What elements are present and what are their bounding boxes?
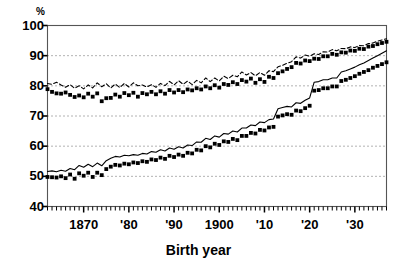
data-point-marker [348, 49, 352, 53]
data-point-marker [272, 76, 276, 80]
data-point-marker [100, 173, 104, 177]
data-point-marker [222, 139, 226, 143]
data-point-marker [321, 54, 325, 58]
data-point-marker [136, 95, 140, 99]
data-point-marker [281, 69, 285, 73]
data-point-marker [172, 155, 176, 159]
data-point-marker [163, 157, 167, 161]
data-point-marker [303, 106, 307, 110]
data-point-marker [181, 154, 185, 158]
data-point-marker [303, 59, 307, 63]
data-point-marker [168, 88, 172, 92]
data-point-marker [235, 82, 239, 86]
data-point-marker [348, 76, 352, 80]
data-point-marker [376, 64, 380, 68]
data-point-marker [326, 54, 330, 58]
data-point-marker [95, 91, 99, 95]
data-point-marker [127, 93, 131, 97]
data-point-marker [376, 42, 380, 46]
data-point-marker [109, 165, 113, 169]
data-point-marker [294, 109, 298, 113]
data-point-marker [159, 89, 163, 93]
data-point-marker [226, 83, 230, 87]
data-point-marker [190, 152, 194, 156]
data-point-marker [181, 90, 185, 94]
data-point-marker [371, 44, 375, 48]
data-point-marker [86, 92, 90, 96]
data-point-marker [168, 154, 172, 158]
data-point-marker [217, 143, 221, 147]
data-point-marker [235, 138, 239, 142]
data-point-marker [46, 175, 50, 179]
data-point-marker [249, 77, 253, 81]
data-point-marker [131, 161, 135, 165]
data-point-marker [244, 80, 248, 84]
data-point-marker [263, 129, 267, 133]
data-point-marker [91, 175, 95, 179]
data-point-marker [82, 174, 86, 178]
data-point-marker [308, 59, 312, 63]
data-point-marker [240, 78, 244, 82]
data-point-marker [177, 153, 181, 157]
data-point-marker [46, 87, 50, 91]
data-point-marker [190, 88, 194, 92]
data-point-marker [50, 90, 54, 94]
data-point-marker [172, 91, 176, 95]
x-axis-tick-label: 1870 [69, 218, 98, 231]
data-point-marker [150, 90, 154, 94]
data-point-marker [159, 156, 163, 160]
data-point-marker [186, 151, 190, 155]
x-axis-title: Birth year [0, 242, 397, 258]
data-point-marker [335, 85, 339, 89]
data-point-marker [109, 96, 113, 100]
data-point-marker [150, 158, 154, 162]
data-point-marker [344, 51, 348, 55]
data-point-marker [217, 86, 221, 90]
data-point-marker [199, 88, 203, 92]
data-point-marker [64, 176, 68, 180]
data-point-marker [371, 66, 375, 70]
data-point-marker [249, 131, 253, 135]
data-point-marker [145, 92, 149, 96]
data-point-marker [204, 85, 208, 89]
data-point-marker [339, 79, 343, 83]
data-point-marker [154, 158, 158, 162]
data-point-marker [104, 96, 108, 100]
data-point-marker [231, 137, 235, 141]
data-point-marker [95, 171, 99, 175]
data-point-marker [208, 86, 212, 90]
data-point-marker [145, 160, 149, 164]
data-point-marker [177, 88, 181, 92]
data-point-marker [213, 142, 217, 146]
data-point-marker [73, 177, 77, 181]
data-point-marker [141, 91, 145, 95]
data-point-marker [154, 92, 158, 96]
data-point-marker [118, 95, 122, 99]
data-point-marker [267, 126, 271, 130]
data-point-marker [272, 125, 276, 129]
data-point-marker [276, 115, 280, 119]
data-point-marker [163, 92, 167, 96]
x-axis-tick-label: '30 [346, 218, 364, 231]
data-point-marker [254, 81, 258, 85]
x-axis-tick-label: '80 [120, 218, 138, 231]
data-point-marker [73, 95, 77, 99]
data-point-marker [290, 65, 294, 69]
x-axis-tick-label: '90 [165, 218, 183, 231]
x-axis-tick-label: '10 [256, 218, 274, 231]
data-point-marker [55, 176, 59, 180]
data-point-marker [199, 148, 203, 152]
data-point-marker [122, 162, 126, 166]
data-point-marker [385, 60, 389, 64]
data-point-marker [367, 68, 371, 72]
data-point-marker [353, 49, 357, 53]
data-point-marker [222, 82, 226, 86]
data-point-marker [113, 163, 117, 167]
data-point-marker [127, 162, 131, 166]
data-point-marker [240, 134, 244, 138]
data-point-marker [362, 47, 366, 51]
data-point-marker [285, 67, 289, 71]
data-point-marker [82, 95, 86, 99]
data-point-marker [312, 57, 316, 61]
data-point-marker [281, 114, 285, 118]
